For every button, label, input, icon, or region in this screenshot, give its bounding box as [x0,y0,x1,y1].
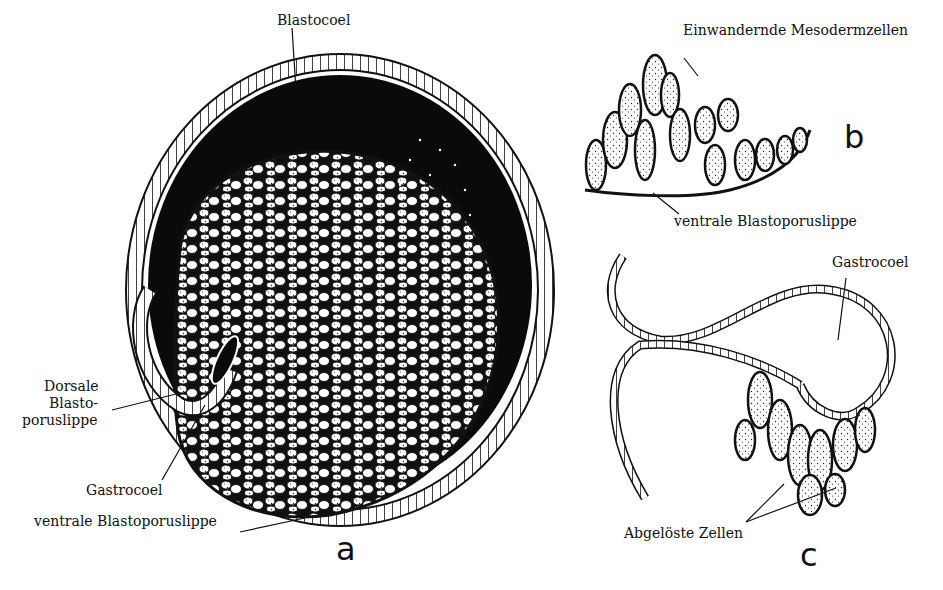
label-dorsal-lip-1: Dorsale [44,378,99,394]
label-dorsal-lip-2: Blasto- [49,395,98,411]
label-gastrocoel-c: Gastrocoel [832,254,909,270]
label-detached-cells: Abgelöste Zellen [624,525,743,541]
panel-c-drawing [611,256,891,522]
panel-b-drawing [585,55,810,214]
panel-letter-b: b [844,118,864,156]
panel-a-drawing [112,28,546,532]
label-blastocoel: Blastocoel [277,12,350,28]
label-migrating-mesoderm: Einwandernde Mesodermzellen [683,22,908,38]
embryo-illustration [0,0,943,590]
label-ventral-lip-b: ventrale Blastoporuslippe [674,213,857,229]
label-ventral-lip-a: ventrale Blastoporuslippe [34,513,217,529]
label-gastrocoel-a: Gastrocoel [86,482,163,498]
panel-letter-a: a [336,530,356,568]
label-dorsal-lip-3: poruslippe [22,412,97,428]
panel-letter-c: c [800,536,818,574]
